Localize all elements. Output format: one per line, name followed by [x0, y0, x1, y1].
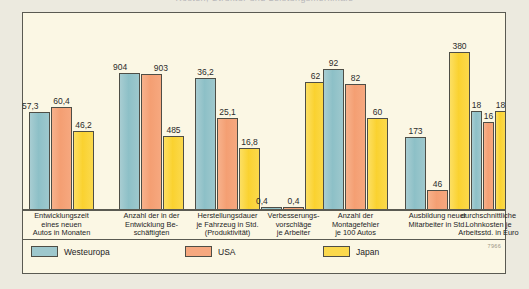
bar-value-label: 92 — [329, 59, 338, 68]
bar-rect-we[interactable] — [29, 112, 50, 209]
bar-rect-jp[interactable] — [449, 52, 470, 209]
bar-rect-jp[interactable] — [73, 131, 94, 209]
bar-rect-us[interactable] — [427, 190, 448, 209]
bar-rect-we[interactable] — [119, 73, 140, 209]
bar-value-label: 380 — [452, 42, 466, 51]
bar-value-label: 60,4 — [53, 97, 70, 106]
bar-value-label: 57,3 — [22, 102, 39, 111]
legend-label: USA — [218, 247, 235, 257]
legend-swatch-us — [185, 246, 212, 257]
bar-jp[interactable]: 380 — [449, 13, 470, 209]
bar-group-bars: 0,40,462 — [261, 13, 326, 209]
legend-swatch-we — [31, 246, 58, 257]
category-label-line: Autos in Monaten — [26, 229, 98, 238]
bar-value-label: 46,2 — [75, 121, 92, 130]
bar-jp[interactable]: 18 — [495, 13, 506, 209]
bar-us[interactable]: 82 — [345, 13, 366, 209]
category-label: Herstellungsdauerje Fahrzeug in Std.(Pro… — [192, 212, 264, 238]
bar-value-label: 16 — [484, 112, 493, 121]
bar-group-bars: 928260 — [323, 13, 388, 209]
chart-legend: WesteuropaUSAJapan — [23, 239, 505, 267]
bar-value-label: 25,1 — [219, 108, 236, 117]
bar-rect-jp[interactable] — [495, 111, 506, 209]
bar-rect-us[interactable] — [141, 74, 162, 209]
bar-value-label: 18 — [472, 101, 481, 110]
category-label: Anzahl derMontagefehlerje 100 Autos — [320, 212, 392, 238]
bar-rect-we[interactable] — [195, 78, 216, 209]
bar-group-bars: 904903485 — [119, 13, 184, 209]
bar-value-label: 16,8 — [241, 138, 258, 147]
bar-we[interactable]: 36,2 — [195, 13, 216, 209]
category-label-line: Arbeitsstd. in Euro — [453, 229, 525, 238]
bar-rect-us[interactable] — [483, 122, 494, 209]
bar-value-label: 62 — [311, 72, 320, 81]
bar-group-bars: 17346380 — [405, 13, 470, 209]
category-label: durchschnittlicheLohnkosten jeArbeitsstd… — [453, 212, 525, 238]
bar-we[interactable]: 904 — [119, 13, 140, 209]
bar-group-bars: 36,225,116,8 — [195, 13, 260, 209]
bar-rect-jp[interactable] — [163, 136, 184, 209]
plot-area: 57,360,446,290490348536,225,116,80,40,46… — [23, 13, 505, 209]
bar-us[interactable]: 46 — [427, 13, 448, 209]
chart-title-strip: Kosten, Struktur und Leistungsmerkmale — [0, 0, 529, 9]
bar-value-label: 485 — [166, 126, 180, 135]
bar-jp[interactable]: 46,2 — [73, 13, 94, 209]
category-label-line: je 100 Autos — [320, 229, 392, 238]
bar-value-label: 173 — [408, 127, 422, 136]
legend-label: Westeuropa — [64, 247, 110, 257]
bar-we[interactable]: 57,3 — [29, 13, 50, 209]
bar-rect-us[interactable] — [217, 118, 238, 209]
bar-we[interactable]: 173 — [405, 13, 426, 209]
bar-us[interactable]: 903 — [141, 13, 162, 209]
bar-value-label: 18 — [496, 101, 505, 110]
bar-value-label: 0,4 — [256, 197, 268, 206]
bar-jp[interactable]: 485 — [163, 13, 184, 209]
category-label-line: schäftigten — [116, 229, 188, 238]
legend-item-jp[interactable]: Japan — [323, 246, 379, 257]
bar-rect-we[interactable] — [405, 137, 426, 209]
bar-rect-we[interactable] — [323, 69, 344, 209]
category-label: Entwicklungszeiteines neuenAutos in Mona… — [26, 212, 98, 238]
bar-value-label: 904 — [113, 63, 127, 72]
category-label: Anzahl der in derEntwicklung Be-schäftig… — [116, 212, 188, 238]
bar-us[interactable]: 0,4 — [283, 13, 304, 209]
bar-rect-us[interactable] — [345, 84, 366, 209]
bar-jp[interactable]: 16,8 — [239, 13, 260, 209]
bar-rect-us[interactable] — [51, 107, 72, 209]
bar-us[interactable]: 25,1 — [217, 13, 238, 209]
bar-we[interactable]: 92 — [323, 13, 344, 209]
bar-value-label: 36,2 — [197, 68, 214, 77]
bar-value-label: 60 — [373, 108, 382, 117]
bar-jp[interactable]: 60 — [367, 13, 388, 209]
legend-item-us[interactable]: USA — [185, 246, 235, 257]
bar-value-label: 0,4 — [288, 197, 300, 206]
legend-item-we[interactable]: Westeuropa — [31, 246, 110, 257]
legend-label: Japan — [356, 247, 379, 257]
chart-title: Kosten, Struktur und Leistungsmerkmale — [0, 0, 529, 3]
bar-us[interactable]: 16 — [483, 13, 494, 209]
bar-rect-jp[interactable] — [367, 118, 388, 209]
bar-value-label: 46 — [433, 180, 442, 189]
bar-we[interactable]: 0,4 — [261, 13, 282, 209]
bar-we[interactable]: 18 — [471, 13, 482, 209]
chart-panel: 57,360,446,290490348536,225,116,80,40,46… — [22, 12, 506, 274]
bar-us[interactable]: 60,4 — [51, 13, 72, 209]
category-label-line: (Produktivität) — [192, 229, 264, 238]
bar-rect-we[interactable] — [471, 111, 482, 209]
bar-group-bars: 181618 — [471, 13, 506, 209]
legend-swatch-jp — [323, 246, 350, 257]
bar-value-label: 82 — [351, 74, 360, 83]
bar-group-bars: 57,360,446,2 — [29, 13, 94, 209]
